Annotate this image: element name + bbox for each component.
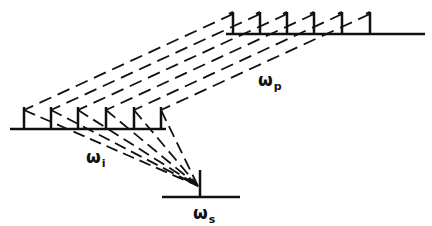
pump-label: ωp bbox=[258, 72, 282, 89]
signal-symbol: ω bbox=[193, 203, 208, 223]
idler-to-signal-dashes bbox=[24, 110, 198, 186]
pump-symbol: ω bbox=[258, 70, 273, 90]
pump-subscript: p bbox=[274, 80, 282, 93]
pump-to-idler-dashes bbox=[24, 14, 370, 110]
comb-diagram bbox=[0, 0, 432, 226]
idler-subscript: i bbox=[102, 157, 106, 170]
signal-subscript: s bbox=[209, 213, 216, 226]
signal-label: ωs bbox=[193, 205, 215, 222]
idler-label: ωi bbox=[86, 149, 106, 166]
signal-line bbox=[162, 170, 240, 197]
idler-symbol: ω bbox=[86, 147, 101, 167]
idler-comb bbox=[10, 107, 166, 129]
